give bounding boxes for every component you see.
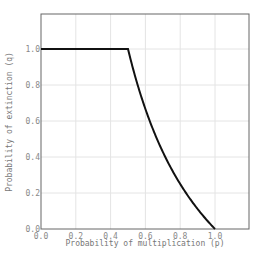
- grid-lines: [41, 14, 249, 229]
- y-tick-label: 0.2: [26, 189, 41, 198]
- y-tick-label: 0.8: [26, 81, 41, 90]
- extinction-probability-chart: 0.00.20.40.60.81.0 0.00.20.40.60.81.0 Pr…: [0, 0, 261, 262]
- y-tick-label: 0.6: [26, 117, 41, 126]
- y-tick-label: 0.4: [26, 153, 41, 162]
- x-axis-label: Probability of multiplication (p): [66, 239, 225, 248]
- y-tick-labels: 0.00.20.40.60.81.0: [26, 45, 41, 234]
- y-tick-label: 1.0: [26, 45, 41, 54]
- y-tick-label: 0.0: [26, 225, 41, 234]
- y-axis-label: Probability of extinction (q): [5, 52, 14, 192]
- extinction-curve: [41, 49, 215, 229]
